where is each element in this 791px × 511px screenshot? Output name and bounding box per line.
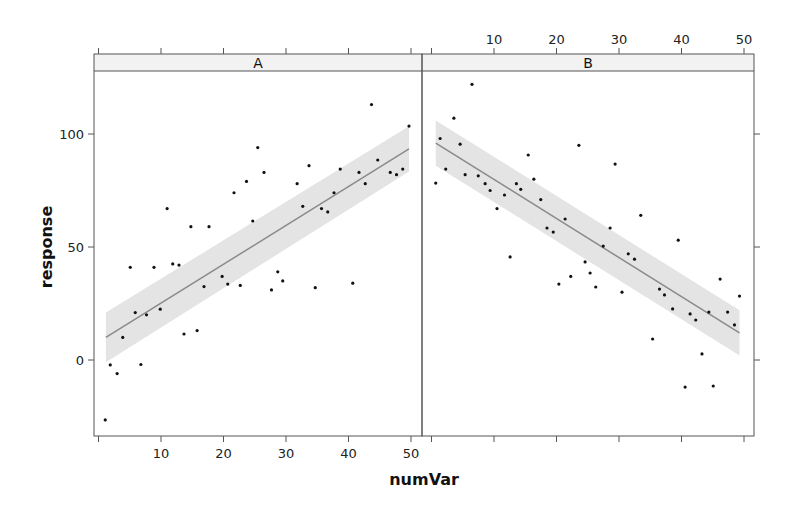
data-point (509, 255, 512, 258)
x-tick-label: 10 (153, 446, 170, 461)
data-point (245, 180, 248, 183)
data-point (569, 275, 572, 278)
data-point (376, 158, 379, 161)
regression-line (106, 149, 409, 337)
data-point (357, 171, 360, 174)
data-point (434, 181, 437, 184)
data-point (620, 291, 623, 294)
data-point (477, 174, 480, 177)
data-point (121, 336, 124, 339)
data-point (658, 287, 661, 290)
data-point (495, 207, 498, 210)
data-point (166, 207, 169, 210)
data-point (189, 225, 192, 228)
data-point (251, 219, 254, 222)
data-point (515, 182, 518, 185)
data-point (182, 332, 185, 335)
data-point (134, 311, 137, 314)
data-point (452, 117, 455, 120)
data-point (639, 214, 642, 217)
data-point (262, 171, 265, 174)
x-tick-label-top: 20 (548, 32, 565, 47)
panel-frames (94, 54, 754, 436)
x-tick-label-top: 30 (611, 32, 628, 47)
data-point (459, 143, 462, 146)
x-tick-label-top: 50 (736, 32, 753, 47)
data-point (232, 191, 235, 194)
data-point (584, 260, 587, 263)
data-point (301, 205, 304, 208)
data-point (489, 189, 492, 192)
data-point (256, 146, 259, 149)
data-point (663, 293, 666, 296)
data-point (707, 310, 710, 313)
data-point (589, 271, 592, 274)
data-point (557, 282, 560, 285)
data-point (221, 275, 224, 278)
data-point (129, 266, 132, 269)
data-point (109, 363, 112, 366)
data-point (116, 372, 119, 375)
data-point (684, 386, 687, 389)
data-point (145, 313, 148, 316)
data-point (527, 153, 530, 156)
data-point (104, 418, 107, 421)
strip-label: B (583, 55, 593, 71)
data-point (726, 310, 729, 313)
data-point (332, 191, 335, 194)
data-point (307, 164, 310, 167)
data-point (370, 103, 373, 106)
data-point (712, 384, 715, 387)
data-point (364, 182, 367, 185)
data-point (470, 83, 473, 86)
data-point (545, 226, 548, 229)
data-point (552, 230, 555, 233)
data-point (689, 312, 692, 315)
data-point (633, 258, 636, 261)
data-point (407, 124, 410, 127)
data-point (444, 167, 447, 170)
data-point (738, 294, 741, 297)
panel-a: A (94, 54, 422, 421)
data-point (326, 210, 329, 213)
data-point (207, 225, 210, 228)
confidence-band (106, 126, 409, 362)
data-point (677, 239, 680, 242)
data-point (594, 285, 597, 288)
data-point (519, 188, 522, 191)
data-point (270, 288, 273, 291)
x-tick-label: 20 (215, 446, 232, 461)
data-point (651, 337, 654, 340)
data-point (700, 352, 703, 355)
data-point (733, 323, 736, 326)
data-point (320, 207, 323, 210)
strip-label: A (253, 55, 263, 71)
data-point (401, 167, 404, 170)
y-axis-title: response (37, 206, 56, 289)
y-tick-label: 50 (67, 240, 84, 255)
axes: 10203040501020304050050100 (59, 32, 760, 461)
data-point (503, 193, 506, 196)
data-point (281, 279, 284, 282)
y-tick-label: 0 (76, 353, 84, 368)
data-point (564, 217, 567, 220)
data-point (196, 329, 199, 332)
data-point (177, 263, 180, 266)
y-tick-label: 100 (59, 127, 84, 142)
data-point (539, 198, 542, 201)
x-tick-label: 40 (340, 446, 357, 461)
data-point (239, 284, 242, 287)
data-point (464, 173, 467, 176)
data-point (627, 252, 630, 255)
data-point (351, 282, 354, 285)
data-point (202, 285, 205, 288)
data-point (395, 173, 398, 176)
data-point (296, 182, 299, 185)
lattice-scatter-chart: A B 10203040501020304050050100 numVar re… (0, 0, 791, 511)
data-point (609, 226, 612, 229)
data-point (577, 144, 580, 147)
data-point (314, 286, 317, 289)
data-point (671, 307, 674, 310)
x-tick-label: 50 (403, 446, 420, 461)
regression-line (436, 143, 740, 333)
